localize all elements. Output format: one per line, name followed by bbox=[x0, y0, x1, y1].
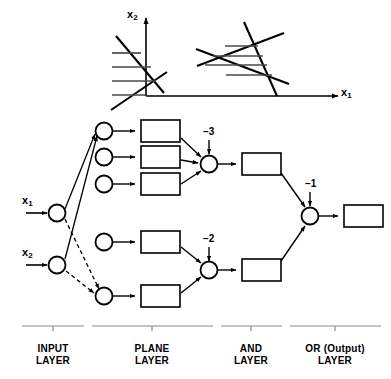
region-line-left-b bbox=[111, 72, 167, 110]
brace-plane bbox=[92, 326, 213, 331]
edge-andbox2-or bbox=[281, 226, 305, 261]
x-axis-label: x1 bbox=[341, 86, 352, 98]
plane-box-4 bbox=[141, 231, 180, 253]
layer-caption-and-line1: AND bbox=[211, 343, 291, 355]
layer-caption-plane: PLANE LAYER bbox=[112, 343, 192, 367]
edge-box1-and1 bbox=[181, 138, 201, 157]
plane-box-2 bbox=[141, 146, 180, 168]
edge-box3-and1 bbox=[181, 171, 201, 184]
bias-label-and-top: –3 bbox=[203, 126, 215, 137]
edge-x1-plane1 bbox=[65, 134, 95, 209]
network-graph bbox=[26, 120, 383, 307]
plane-node-2 bbox=[96, 149, 113, 166]
or-node bbox=[302, 208, 319, 225]
region-line-right-a bbox=[196, 49, 289, 84]
layer-caption-plane-line1: PLANE bbox=[112, 343, 192, 355]
edge-box4-and2 bbox=[181, 247, 201, 263]
layer-caption-and: AND LAYER bbox=[211, 343, 291, 367]
input-node-x2 bbox=[49, 257, 66, 274]
edge-x1-plane5-dashed bbox=[65, 219, 99, 289]
plane-box-5 bbox=[141, 285, 180, 307]
diagram-canvas bbox=[0, 0, 391, 379]
layer-caption-plane-line2: LAYER bbox=[112, 355, 192, 367]
decision-region-plot bbox=[111, 18, 338, 110]
plane-node-3 bbox=[96, 176, 113, 193]
region-line-left-a bbox=[116, 36, 164, 93]
layer-caption-input-line2: LAYER bbox=[13, 355, 93, 367]
plane-node-5 bbox=[96, 288, 113, 305]
layer-caption-or-line2: LAYER bbox=[295, 355, 375, 367]
layer-caption-or: OR (Output) LAYER bbox=[295, 343, 375, 367]
input-node-x1 bbox=[49, 205, 66, 222]
bias-label-or: –1 bbox=[305, 178, 317, 189]
and-box-2 bbox=[242, 259, 281, 281]
layer-braces bbox=[22, 326, 381, 331]
region-hatch-left bbox=[112, 53, 156, 95]
brace-or bbox=[290, 326, 381, 331]
figure-root: x2 x1 x1 x2 –3 –2 –1 INPUT LAYER PLANE L… bbox=[0, 0, 391, 379]
region-line-right-c bbox=[244, 22, 277, 96]
input-label-x2: x2 bbox=[22, 246, 33, 258]
layer-caption-and-line2: LAYER bbox=[211, 355, 291, 367]
brace-input bbox=[22, 326, 84, 331]
plane-box-1 bbox=[141, 120, 180, 142]
output-box bbox=[344, 205, 383, 227]
plane-node-1 bbox=[96, 123, 113, 140]
and-node-1 bbox=[201, 156, 218, 173]
region-line-right-b bbox=[197, 33, 284, 66]
plane-box-3 bbox=[141, 173, 180, 195]
and-node-2 bbox=[201, 262, 218, 279]
input-label-x1: x1 bbox=[22, 194, 33, 206]
plane-node-4 bbox=[96, 234, 113, 251]
layer-caption-input: INPUT LAYER bbox=[13, 343, 93, 367]
and-box-1 bbox=[242, 153, 281, 175]
brace-and bbox=[221, 326, 282, 331]
layer-caption-or-line1: OR (Output) bbox=[295, 343, 375, 355]
y-axis-label: x2 bbox=[127, 8, 138, 20]
edge-andbox1-or bbox=[281, 173, 305, 207]
edge-box2-and1 bbox=[181, 160, 198, 163]
layer-caption-input-line1: INPUT bbox=[13, 343, 93, 355]
edge-x2-plane5-dashed bbox=[66, 271, 94, 293]
bias-label-and-bottom: –2 bbox=[203, 233, 215, 244]
edge-box5-and2 bbox=[181, 277, 201, 293]
